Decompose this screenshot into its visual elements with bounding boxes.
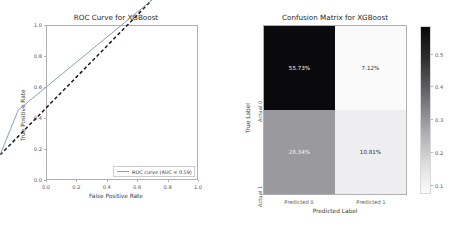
- cm-cell-value-01: 7.12%: [362, 65, 380, 71]
- cm-yaxis-label: True Label: [245, 103, 251, 133]
- colorbar-tick-3: 0.2: [435, 150, 443, 156]
- colorbar-tick-2: 0.3: [435, 117, 443, 123]
- cm-ytick-actual1: Actual 1: [257, 186, 263, 207]
- cm-axes-frame: 55.73% 7.12% 26.34% 10.81%: [263, 25, 407, 195]
- cm-cell-value-10: 26.34%: [289, 149, 310, 155]
- cm-cell-grid: 55.73% 7.12% 26.34% 10.81%: [264, 26, 406, 194]
- colorbar-tick-4: 0.1: [435, 183, 443, 189]
- roc-xtick-5: 1.0: [194, 184, 202, 190]
- colorbar-tick-0: 0.5: [435, 52, 443, 58]
- colorbar-tick-1: 0.4: [435, 84, 443, 90]
- cm-xaxis-label: Predicted Label: [263, 208, 407, 214]
- cm-cell-actual1-predicted0[interactable]: 26.34%: [264, 110, 335, 194]
- cm-cell-actual1-predicted1[interactable]: 10.81%: [335, 110, 406, 194]
- colorbar-tickmark-0: [431, 54, 433, 55]
- colorbar-tickmark-1: [431, 86, 433, 87]
- roc-xtickmark-2: [107, 180, 108, 182]
- roc-plot-area: [0, 0, 152, 155]
- roc-xtick-3: 0.6: [133, 184, 141, 190]
- colorbar[interactable]: [420, 26, 431, 194]
- cm-cell-actual0-predicted1[interactable]: 7.12%: [335, 26, 406, 110]
- figure-canvas: ROC Curve for XGBoost 0.0 0.2 0.4 0.6 0.…: [0, 0, 467, 239]
- cm-cell-actual0-predicted0[interactable]: 55.73%: [264, 26, 335, 110]
- roc-legend-label: ROC curve (AUC = 0.59): [132, 169, 192, 175]
- roc-ytick-0: 0.0: [28, 177, 42, 183]
- roc-panel: ROC Curve for XGBoost 0.0 0.2 0.4 0.6 0.…: [0, 0, 232, 239]
- roc-xtickmark-4: [168, 180, 169, 182]
- roc-xtickmark-1: [76, 180, 77, 182]
- colorbar-tickmark-2: [431, 119, 433, 120]
- roc-curves-svg: [0, 0, 152, 155]
- chance-diagonal-line: [0, 0, 152, 155]
- roc-xtick-2: 0.4: [103, 184, 111, 190]
- colorbar-tickmark-3: [431, 152, 433, 153]
- cm-cell-value-11: 10.81%: [360, 149, 381, 155]
- roc-xtickmark-0: [46, 180, 47, 182]
- roc-xtick-1: 0.2: [72, 184, 80, 190]
- cm-xtick-predicted0: Predicted 0: [284, 199, 313, 205]
- roc-xtickmark-5: [198, 180, 199, 182]
- roc-xaxis-label: False Positive Rate: [0, 193, 232, 199]
- colorbar-tickmark-4: [431, 185, 433, 186]
- roc-xtick-4: 0.8: [163, 184, 171, 190]
- colorbar-gradient: [420, 26, 431, 194]
- roc-legend[interactable]: ROC curve (AUC = 0.59): [113, 166, 195, 177]
- cm-ytick-actual0: Actual 0: [257, 101, 263, 122]
- cm-chart-title: Confusion Matrix for XGBoost: [263, 13, 407, 22]
- cm-xtick-predicted1: Predicted 1: [356, 199, 385, 205]
- roc-legend-swatch: [117, 171, 129, 172]
- roc-xtick-0: 0.0: [42, 184, 50, 190]
- cm-cell-value-00: 55.73%: [289, 65, 310, 71]
- roc-xtickmark-3: [137, 180, 138, 182]
